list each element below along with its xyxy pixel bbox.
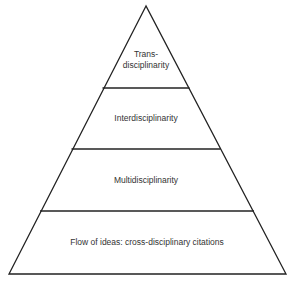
level-base-label: Flow of ideas: cross-disciplinary citati… xyxy=(40,237,254,248)
level-interdisciplinarity-label: Interdisciplinarity xyxy=(71,113,221,124)
pyramid-diagram: Trans- disciplinarity Interdisciplinarit… xyxy=(0,0,291,281)
level-top-line1: Trans- xyxy=(96,49,196,60)
level-top-line2: disciplinarity xyxy=(96,60,196,71)
level-multidisciplinarity-label: Multidisciplinarity xyxy=(71,175,221,186)
level-top-label: Trans- disciplinarity xyxy=(96,49,196,71)
